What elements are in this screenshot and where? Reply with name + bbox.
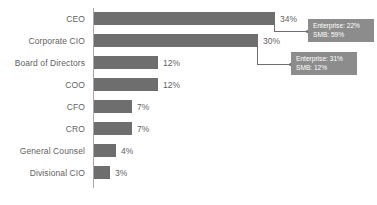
callout-leader-vertical-corporate-cio (257, 43, 258, 65)
chart-row: CFO 7% (0, 96, 377, 118)
category-label-general-counsel: General Counsel (0, 140, 85, 162)
category-label-corporate-cio: Corporate CIO (0, 30, 85, 52)
bar-value-general-counsel: 4% (121, 140, 133, 162)
bar-chart: CEO 34% Corporate CIO 30% Board of Direc… (0, 0, 377, 205)
bar-value-board-of-directors: 12% (163, 52, 180, 74)
callout-leader-horizontal-corporate-cio (257, 64, 291, 65)
bar-ceo[interactable] (94, 12, 275, 25)
category-label-cro: CRO (0, 118, 85, 140)
callout-ceo-enterprise: Enterprise: 22% (313, 22, 370, 31)
callout-corporate-cio-enterprise: Enterprise: 31% (296, 55, 353, 64)
category-label-board-of-directors: Board of Directors (0, 52, 85, 74)
chart-row: Divisional CIO 3% (0, 162, 377, 184)
bar-cfo[interactable] (94, 100, 132, 113)
chart-row: COO 12% (0, 74, 377, 96)
callout-corporate-cio[interactable]: Enterprise: 31% SMB: 12% (291, 52, 357, 75)
bar-general-counsel[interactable] (94, 144, 116, 157)
bar-coo[interactable] (94, 78, 158, 91)
bar-value-coo: 12% (163, 74, 180, 96)
category-label-ceo: CEO (0, 8, 85, 30)
chart-row: General Counsel 4% (0, 140, 377, 162)
callout-ceo-smb: SMB: 59% (313, 31, 370, 40)
bar-value-cro: 7% (137, 118, 149, 140)
bar-board-of-directors[interactable] (94, 56, 158, 69)
bar-value-divisional-cio: 3% (115, 162, 127, 184)
callout-leader-horizontal-ceo (274, 31, 308, 32)
bar-value-cfo: 7% (137, 96, 149, 118)
bar-value-corporate-cio: 30% (263, 30, 280, 52)
category-label-divisional-cio: Divisional CIO (0, 162, 85, 184)
category-label-coo: COO (0, 74, 85, 96)
bar-divisional-cio[interactable] (94, 166, 110, 179)
callout-corporate-cio-smb: SMB: 12% (296, 64, 353, 73)
bar-value-ceo: 34% (280, 8, 297, 30)
category-label-cfo: CFO (0, 96, 85, 118)
callout-ceo[interactable]: Enterprise: 22% SMB: 59% (308, 19, 374, 42)
chart-row: CRO 7% (0, 118, 377, 140)
bar-corporate-cio[interactable] (94, 34, 258, 47)
bar-cro[interactable] (94, 122, 132, 135)
